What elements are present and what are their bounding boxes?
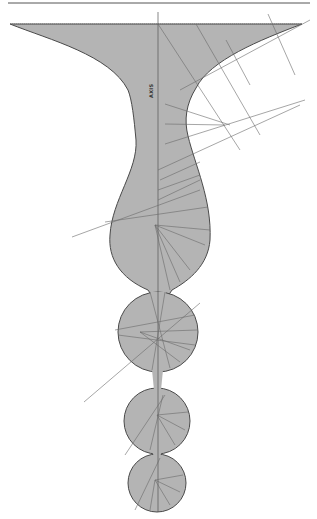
funnel-and-bulb-shape: [10, 24, 302, 296]
axis-label: AXIS: [148, 84, 154, 98]
liquid-jet-diagram: AXIS: [0, 0, 317, 519]
neck-join-2: [152, 370, 163, 390]
